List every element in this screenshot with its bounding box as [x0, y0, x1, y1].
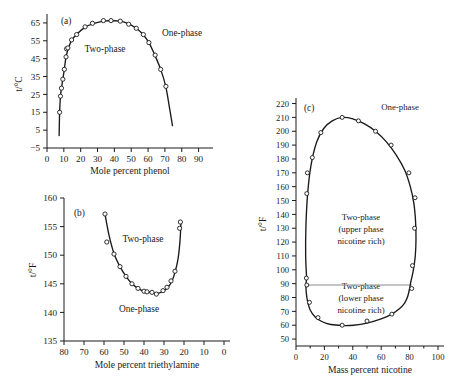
data-point-marker — [103, 212, 107, 216]
region-label-c-one-phase: One-phase — [381, 102, 419, 112]
data-point-marker — [61, 77, 65, 81]
region-label-c-upper-nicotine-rich: nicotine rich) — [337, 236, 384, 246]
data-point-marker — [407, 171, 411, 175]
data-point-marker — [147, 40, 151, 44]
y-axis-title-b: t/°F — [27, 263, 38, 278]
x-tick-label: 40 — [110, 154, 120, 164]
chart-c-x-ticks: 020406080100 — [294, 346, 445, 362]
region-label-c-lower-phase: (lower phase — [338, 293, 383, 303]
data-point-marker — [374, 129, 378, 133]
data-point-marker — [305, 171, 309, 175]
data-point-marker — [356, 119, 360, 123]
data-point-marker — [90, 21, 94, 25]
chart-panel-c: 5060708090100110120130140150160170180190… — [248, 88, 450, 386]
y-tick-label: 140 — [276, 210, 289, 220]
y-tick-label: 150 — [276, 196, 289, 206]
y-tick-label: 150 — [43, 250, 57, 260]
x-axis-title-b: Mole percent triethylamine — [95, 359, 199, 370]
region-label-b-two-phase: Two-phase — [123, 234, 164, 244]
data-point-marker — [75, 32, 79, 36]
data-point-marker — [161, 289, 165, 293]
y-tick-label: 210 — [276, 113, 289, 123]
data-point-marker — [164, 84, 168, 88]
y-tick-label: 190 — [276, 140, 289, 150]
y-tick-label: 200 — [276, 126, 289, 136]
data-point-marker — [83, 25, 87, 29]
data-point-marker — [178, 220, 182, 224]
data-point-marker — [118, 19, 122, 23]
chart-panel-a: −55152535455565 0102030405060708090 (a) … — [0, 0, 232, 185]
data-point-marker — [69, 38, 73, 42]
x-tick-label: 80 — [59, 347, 69, 357]
x-tick-label: 20 — [76, 154, 86, 164]
data-point-marker — [410, 287, 414, 291]
y-axis-title-c: t/°F — [257, 217, 268, 232]
coexistence-curve-a — [59, 21, 172, 136]
panel-label-b: (b) — [74, 208, 85, 219]
region-label-c-upper-two-phase: Two-phase — [342, 212, 381, 222]
y-tick-label: 15 — [31, 107, 41, 117]
x-tick-label: 40 — [139, 347, 149, 357]
y-axis-title-a: t/°C — [13, 76, 24, 92]
data-point-marker — [310, 156, 314, 160]
y-tick-label: 60 — [280, 320, 289, 330]
y-tick-label: 120 — [276, 237, 289, 247]
data-point-marker — [136, 286, 140, 290]
chart-panel-b: 135140145150155160 80706050403020100 (b)… — [18, 180, 250, 386]
y-tick-label: 55 — [31, 36, 41, 46]
chart-a-data-points — [58, 19, 168, 115]
data-point-marker — [365, 319, 369, 323]
x-tick-label: 60 — [377, 352, 386, 362]
data-point-marker — [305, 283, 309, 287]
y-tick-label: 25 — [31, 90, 41, 100]
region-label-c-lower-nicotine-rich: nicotine rich) — [337, 305, 384, 315]
data-point-marker — [150, 290, 154, 294]
data-point-marker — [413, 196, 417, 200]
y-tick-label: 135 — [43, 336, 57, 346]
chart-a-y-ticks: −55152535455565 — [30, 18, 47, 153]
data-point-marker — [154, 292, 158, 296]
data-point-marker — [316, 316, 320, 320]
x-axis-title-a: Mole percent phenol — [90, 165, 170, 176]
region-label-c-lower-two-phase: Two-phase — [342, 281, 381, 291]
data-point-marker — [169, 279, 173, 283]
data-point-marker — [173, 269, 177, 273]
x-tick-label: 50 — [127, 154, 137, 164]
data-point-marker — [66, 46, 70, 50]
x-tick-label: 50 — [119, 347, 129, 357]
data-point-marker — [340, 115, 344, 119]
x-tick-label: 0 — [294, 352, 298, 362]
data-point-marker — [307, 300, 311, 304]
data-point-marker — [59, 86, 63, 90]
region-label-c-upper-phase: (upper phase — [338, 224, 383, 234]
y-tick-label: 160 — [276, 182, 289, 192]
data-point-marker — [58, 110, 62, 114]
data-point-marker — [319, 131, 323, 135]
data-point-marker — [390, 312, 394, 316]
y-tick-label: 110 — [276, 251, 289, 261]
x-tick-label: 70 — [160, 154, 170, 164]
x-tick-label: 10 — [199, 347, 209, 357]
data-point-marker — [165, 285, 169, 289]
region-label-b-one-phase: One-phase — [119, 304, 159, 314]
data-point-marker — [101, 19, 105, 23]
data-point-marker — [112, 252, 116, 256]
x-axis-title-c: Mass percent nicotine — [328, 364, 412, 375]
data-point-marker — [127, 22, 131, 26]
data-point-marker — [340, 323, 344, 327]
data-point-marker — [141, 32, 145, 36]
x-tick-label: 40 — [349, 352, 358, 362]
y-tick-label: 130 — [276, 223, 289, 233]
y-tick-label: 90 — [280, 279, 289, 289]
x-tick-label: 0 — [222, 347, 227, 357]
x-tick-label: 30 — [93, 154, 103, 164]
x-tick-label: 60 — [143, 154, 153, 164]
data-point-marker — [389, 143, 393, 147]
y-tick-label: 155 — [43, 222, 57, 232]
data-point-marker — [124, 274, 128, 278]
x-tick-label: 10 — [59, 154, 69, 164]
data-point-marker — [159, 67, 163, 71]
y-tick-label: −5 — [30, 143, 40, 153]
chart-b-axes — [64, 198, 230, 341]
y-tick-label: 160 — [43, 193, 57, 203]
